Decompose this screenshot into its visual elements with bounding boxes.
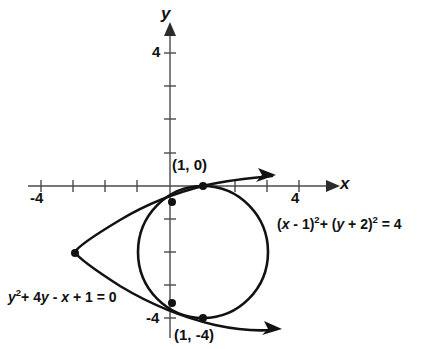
y-tick-label-negative-4: -4: [146, 310, 159, 325]
parabola-upper-arrowhead: [256, 168, 276, 182]
point-marker-1-0: [199, 182, 207, 190]
x-axis-arrowhead: [326, 180, 340, 192]
y-axis-arrowhead: [164, 22, 176, 36]
x-tick-label-4: 4: [291, 190, 299, 205]
y-tick-label-4: 4: [152, 44, 160, 59]
point-marker-lower-intersection: [168, 299, 176, 307]
point-label-1-neg4: (1, -4): [174, 327, 214, 342]
x-axis-label: x: [340, 175, 349, 192]
parabola-equation-label: y2+ 4y - x + 1 = 0: [8, 288, 116, 304]
math-figure: y x -4 4 4 -4 (1, 0) (1, -4) (x - 1)2+ (…: [0, 0, 426, 349]
point-label-1-0: (1, 0): [172, 157, 207, 172]
point-marker-1-neg4: [199, 314, 207, 322]
parabola-lower-arrowhead: [262, 321, 282, 335]
point-marker-vertex: [71, 249, 79, 257]
x-tick-label-negative-4: -4: [30, 190, 43, 205]
circle-equation-label: (x - 1)2+ (y + 2)2 = 4: [277, 215, 402, 231]
point-marker-upper-intersection: [168, 198, 176, 206]
y-axis-label: y: [161, 5, 170, 22]
circle-curve: [138, 186, 268, 318]
